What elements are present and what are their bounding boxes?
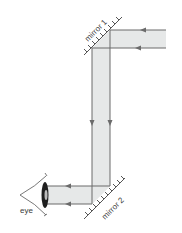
- light-beam: [45, 30, 166, 204]
- eye-label: eye: [20, 206, 33, 215]
- periscope-diagram: mirror 1 mirror 2 eye: [0, 0, 182, 233]
